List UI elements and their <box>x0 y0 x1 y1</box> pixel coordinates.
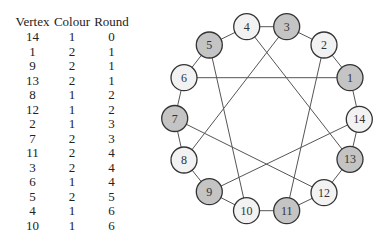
vertex-label: 13 <box>344 152 356 166</box>
vertex-label: 10 <box>241 204 253 218</box>
vertex-label: 7 <box>172 112 178 126</box>
vertex-node-2: 2 <box>311 32 337 58</box>
vertex-label: 2 <box>321 38 327 52</box>
vertex-node-1: 1 <box>337 65 363 91</box>
vertex-label: 3 <box>284 20 290 34</box>
vertex-node-3: 3 <box>274 14 300 40</box>
vertex-node-6: 6 <box>171 65 197 91</box>
edge-14-9 <box>209 119 359 191</box>
vertex-node-11: 11 <box>274 198 300 224</box>
vertex-label: 1 <box>347 71 353 85</box>
vertex-node-12: 12 <box>311 180 337 206</box>
vertex-node-7: 7 <box>162 106 188 132</box>
vertex-node-8: 8 <box>171 147 197 173</box>
vertex-label: 5 <box>206 38 212 52</box>
vertex-label: 14 <box>353 112 365 126</box>
graph-diagram: 1234567891011121314 <box>0 0 391 245</box>
edge-7-12 <box>175 119 324 193</box>
vertex-node-10: 10 <box>234 198 260 224</box>
vertex-label: 11 <box>281 204 293 218</box>
vertex-node-13: 13 <box>337 146 363 172</box>
vertex-label: 9 <box>206 185 212 199</box>
vertex-node-14: 14 <box>346 106 372 132</box>
vertex-label: 6 <box>181 71 187 85</box>
vertex-node-9: 9 <box>196 179 222 205</box>
vertex-node-4: 4 <box>234 14 260 40</box>
vertex-label: 4 <box>244 20 250 34</box>
graph-nodes: 1234567891011121314 <box>162 14 373 224</box>
vertex-label: 8 <box>181 153 187 167</box>
vertex-node-5: 5 <box>196 32 222 58</box>
vertex-label: 12 <box>318 186 330 200</box>
